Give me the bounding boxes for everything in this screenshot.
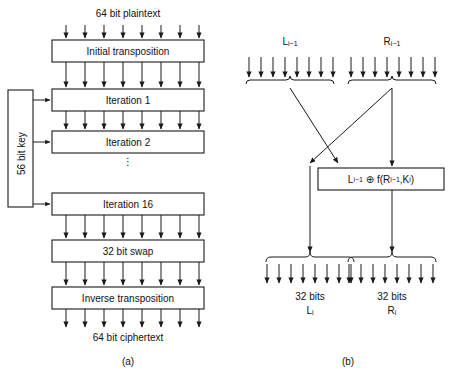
box-label-iteration-1: Iteration 1 <box>52 89 204 111</box>
label-L-input: Li−1 <box>282 37 297 47</box>
brace-R-input <box>348 76 436 84</box>
vertical-ellipsis: ⋮ <box>118 160 138 164</box>
label-L-output: Li <box>306 306 313 316</box>
bus-R-output <box>349 264 433 283</box>
plaintext-label: 64 bit plaintext <box>96 9 161 19</box>
bus-iteration-16-to-swap <box>66 215 199 238</box>
bus-L-output <box>267 264 351 283</box>
des-figure-root: 64 bit plaintext Initial transposition I… <box>0 0 453 377</box>
box-label-initial-transposition: Initial transposition <box>52 40 204 62</box>
box-label-iteration-2: Iteration 2 <box>52 131 204 153</box>
formula-close: ) <box>411 174 414 185</box>
bus-initial-to-iteration-1 <box>66 62 199 87</box>
brace-L-output <box>266 252 354 262</box>
box-label-iteration-16: Iteration 16 <box>52 193 204 215</box>
brace-L-input <box>246 76 334 84</box>
formula-key-base: K <box>403 174 410 185</box>
line-R-to-left-output <box>310 88 392 163</box>
panel-a-group <box>8 25 204 327</box>
label-L-output-sub: i <box>312 309 314 316</box>
label-L-output-size: 32 bits <box>295 292 324 302</box>
label-R-output-sub: i <box>395 309 397 316</box>
formula-operator: ⊕ <box>366 174 374 185</box>
label-R-input: Ri−1 <box>384 37 401 47</box>
label-L-input-sub: i−1 <box>288 40 298 47</box>
key-box-label: 56 bit key <box>16 132 27 175</box>
bus-plaintext-to-initial <box>66 25 199 38</box>
ciphertext-label: 64 bit ciphertext <box>93 333 164 343</box>
box-label-inverse-transposition: Inverse transposition <box>52 287 204 309</box>
bus-L-input <box>249 57 333 77</box>
box-label-32-bit-swap: 32 bit swap <box>52 240 204 262</box>
bus-inverse-to-ciphertext <box>66 309 199 327</box>
panel-b-caption: (b) <box>342 357 354 367</box>
formula-label: Li−1 ⊕ f(Ri−1, Ki) <box>318 168 444 190</box>
bus-iteration-1-to-2 <box>66 111 199 129</box>
bus-R-input <box>351 57 435 77</box>
formula-arg-sub: i−1 <box>390 176 400 183</box>
label-R-input-sub: i−1 <box>391 40 401 47</box>
label-R-output: Ri <box>388 306 397 316</box>
key-feed-lines <box>33 100 50 204</box>
line-L-to-formula <box>290 88 338 163</box>
formula-left-sub: i−1 <box>353 176 363 183</box>
brace-R-output <box>348 252 436 262</box>
bus-swap-to-inverse <box>66 262 199 285</box>
formula-arg-base: R <box>383 174 390 185</box>
label-R-output-size: 32 bits <box>377 292 406 302</box>
panel-a-caption: (a) <box>122 357 134 367</box>
